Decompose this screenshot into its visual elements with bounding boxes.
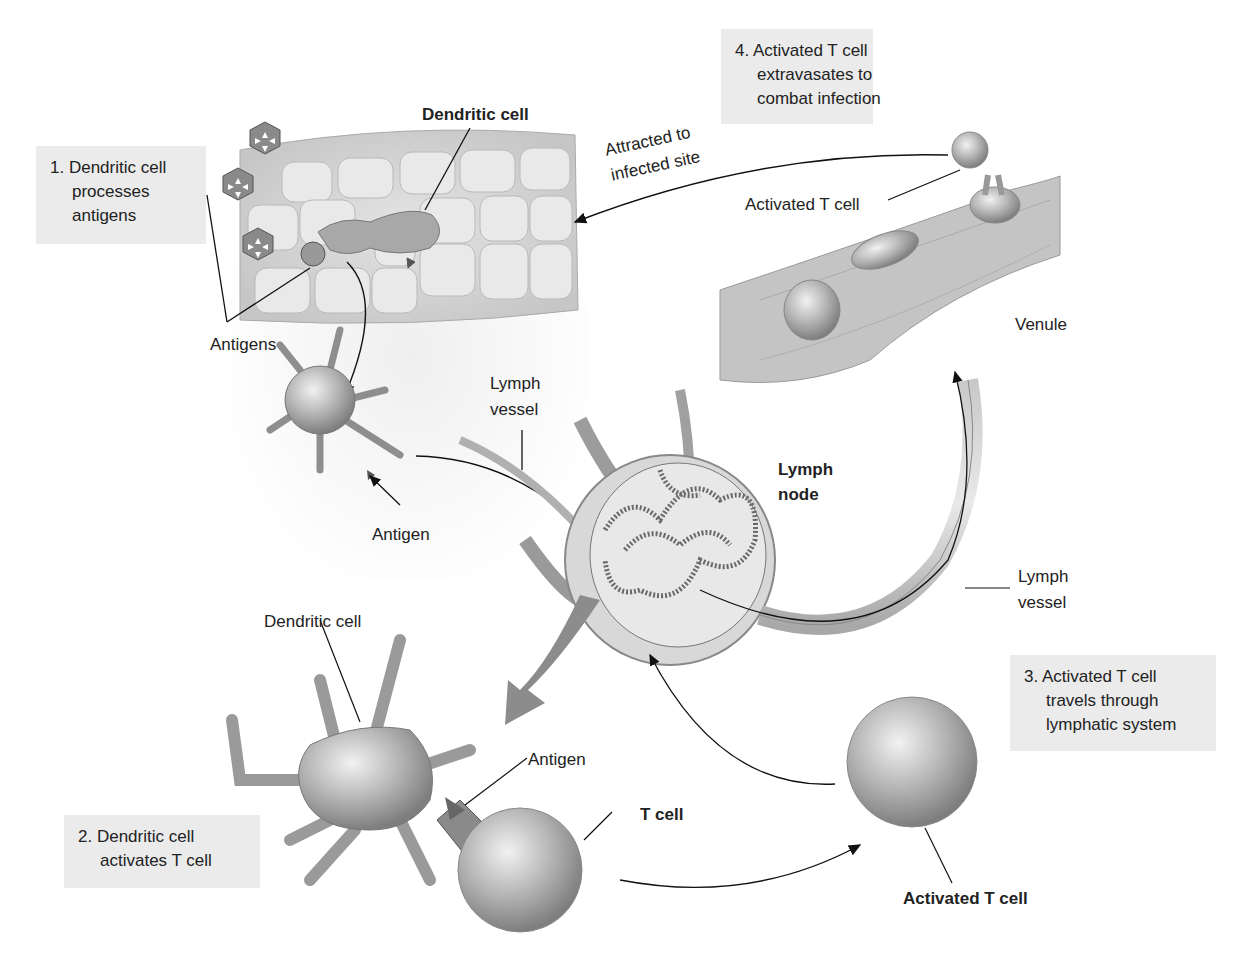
label-dendritic-cell-top: Dendritic cell [422, 104, 529, 125]
venule [720, 132, 1060, 383]
label-venule: Venule [1015, 314, 1067, 335]
step-1-box: 1. Dendritic cell processes antigens [36, 146, 206, 244]
step-4-box: 4. Activated T cell extravasates to comb… [721, 29, 873, 124]
label-dendritic-cell-bottom: Dendritic cell [264, 611, 361, 632]
label-lymph-node-1: Lymph [778, 459, 833, 480]
epithelial-tissue [240, 130, 578, 323]
label-activated-t-cell-bottom: Activated T cell [903, 888, 1028, 909]
lymph-node [565, 455, 775, 665]
step-3-box: 3. Activated T cell travels through lymp… [1010, 655, 1216, 751]
label-t-cell: T cell [640, 804, 683, 825]
label-lymph-vessel-right-1: Lymph [1018, 566, 1068, 587]
label-lymph-vessel-left-1: Lymph [490, 373, 540, 394]
t-cell-activation-diagram: 1. Dendritic cell processes antigens 2. … [0, 0, 1243, 963]
label-lymph-vessel-right-2: vessel [1018, 592, 1066, 613]
label-lymph-vessel-left-2: vessel [490, 399, 538, 420]
t-cell [458, 808, 612, 932]
dendritic-cell-bottom [232, 620, 470, 880]
label-activated-t-cell-top: Activated T cell [745, 194, 860, 215]
activated-t-cell [847, 697, 977, 883]
label-antigen-bottom: Antigen [528, 749, 586, 770]
label-antigens: Antigens [210, 334, 276, 355]
label-lymph-node-2: node [778, 484, 819, 505]
step-2-box: 2. Dendritic cell activates T cell [64, 815, 260, 888]
label-antigen-mid: Antigen [372, 524, 430, 545]
big-gray-arrow [505, 595, 600, 725]
